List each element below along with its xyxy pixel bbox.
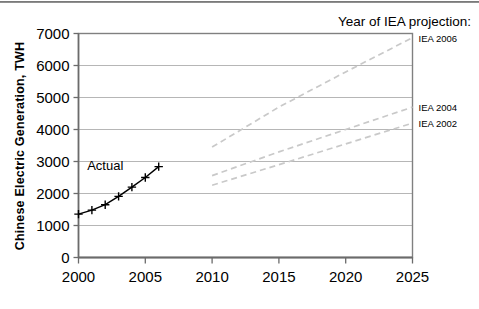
legend-title: Year of IEA projection:	[338, 14, 471, 29]
y-tick-label: 3000	[36, 153, 69, 170]
x-tick-label: 2015	[262, 268, 295, 285]
chart-figure: 01000200030004000500060007000 2000200520…	[0, 0, 479, 309]
plot-annotations: Actual	[87, 158, 123, 173]
projection-line-iea-2004	[212, 107, 412, 176]
actual-data-point-marker	[101, 201, 109, 209]
iea-projection-line-chart: 01000200030004000500060007000 2000200520…	[0, 0, 479, 309]
actual-data-point-marker	[74, 210, 82, 218]
series-end-labels: IEA 2006IEA 2004IEA 2002	[419, 33, 458, 129]
projection-line-iea-2002	[212, 123, 412, 185]
y-tick-label: 6000	[36, 57, 69, 74]
y-axis-tick-labels: 01000200030004000500060007000	[36, 25, 69, 266]
x-tick-label: 2000	[62, 268, 95, 285]
projection-series-group	[212, 38, 412, 186]
x-tick-label: 2025	[396, 268, 429, 285]
y-axis-title: Chinese Electric Generation, TWH	[13, 42, 27, 251]
x-tick-label: 2020	[329, 268, 362, 285]
projection-line-iea-2006	[212, 38, 412, 147]
plot-area-border	[79, 34, 413, 258]
annotation-actual: Actual	[87, 158, 123, 173]
actual-data-point-marker	[88, 206, 96, 214]
gridlines	[79, 66, 413, 226]
y-tick-label: 4000	[36, 121, 69, 138]
y-tick-label: 5000	[36, 89, 69, 106]
y-tick-label: 1000	[36, 217, 69, 234]
page-edge-divider	[0, 0, 479, 4]
series-end-label: IEA 2002	[419, 118, 458, 129]
x-tick-label: 2010	[195, 268, 228, 285]
series-end-label: IEA 2006	[419, 33, 458, 44]
x-tick-label: 2005	[129, 268, 162, 285]
y-tick-label: 7000	[36, 25, 69, 42]
x-axis-tick-labels: 200020052010201520202025	[62, 268, 429, 285]
y-tick-label: 2000	[36, 185, 69, 202]
actual-line	[79, 167, 159, 215]
y-tick-label: 0	[61, 249, 69, 266]
series-end-label: IEA 2004	[419, 102, 458, 113]
